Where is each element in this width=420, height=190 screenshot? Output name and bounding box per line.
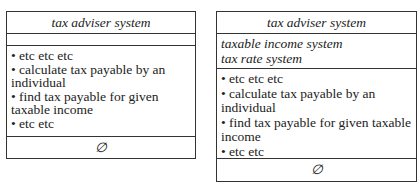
operations-section: • etc etc etc • calculate tax payable by… [7, 46, 195, 137]
attributes-section: taxable income system tax rate system [217, 34, 416, 69]
operation-item: • find tax payable for given taxable inc… [221, 116, 412, 145]
attribute-item: taxable income system [221, 36, 412, 51]
operation-item: • find tax payable for given taxable inc… [11, 90, 171, 117]
operation-item: • etc etc [221, 145, 412, 160]
operation-item: • etc etc etc [221, 72, 412, 87]
null-symbol: ∅ [217, 159, 416, 180]
attribute-item: tax rate system [221, 51, 412, 66]
operation-item: • etc etc [11, 117, 191, 131]
class-name: tax adviser system [217, 12, 416, 34]
class-box-left: tax adviser system • etc etc etc • calcu… [6, 11, 196, 159]
operations-section: • etc etc etc • calculate tax payable by… [217, 69, 416, 159]
class-name: tax adviser system [7, 12, 195, 34]
operation-item: • calculate tax payable by an individual [221, 87, 401, 116]
null-symbol: ∅ [7, 137, 195, 158]
operation-item: • calculate tax payable by an individual [11, 63, 183, 90]
operation-item: • etc etc etc [11, 49, 183, 63]
class-box-right: tax adviser system taxable income system… [216, 11, 417, 182]
attributes-section-empty [7, 34, 195, 46]
